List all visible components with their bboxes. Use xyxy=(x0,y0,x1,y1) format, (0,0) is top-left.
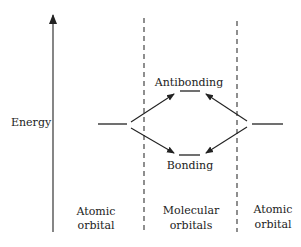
column-right-line1: Atomic xyxy=(253,203,293,216)
bonding-label: Bonding xyxy=(167,159,213,172)
arrow-right-to-antibonding-icon xyxy=(206,94,247,121)
column-left-line2: orbital xyxy=(78,219,115,232)
energy-axis-label: Energy xyxy=(11,116,52,129)
column-middle-line2: orbitals xyxy=(170,219,213,232)
arrow-left-to-bonding-icon xyxy=(131,128,174,153)
antibonding-label: Antibonding xyxy=(154,76,223,89)
mo-diagram: Energy Antibonding Bonding Atomic orbita… xyxy=(0,0,301,247)
column-right-line2: orbital xyxy=(255,218,292,231)
arrow-right-to-bonding-icon xyxy=(206,127,247,153)
energy-axis-arrowhead-icon xyxy=(49,14,57,24)
column-middle-line1: Molecular xyxy=(163,204,220,217)
arrow-left-to-antibonding-icon xyxy=(131,94,174,122)
column-left-line1: Atomic xyxy=(76,205,116,218)
